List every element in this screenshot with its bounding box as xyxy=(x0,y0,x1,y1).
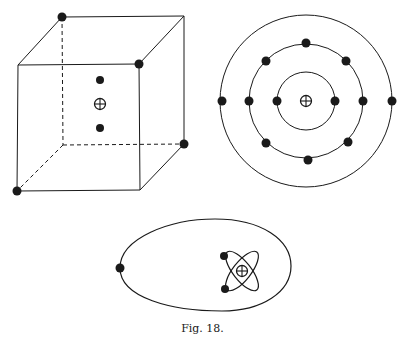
electron-dot xyxy=(116,264,125,273)
cube-hidden-edge xyxy=(62,17,63,145)
electron-dot xyxy=(273,97,282,106)
electron-dot xyxy=(13,187,22,196)
nucleus-icon xyxy=(237,266,248,277)
electron-dot xyxy=(58,13,67,22)
nucleus-icon xyxy=(95,99,106,110)
cube-edge xyxy=(17,190,140,191)
electron-dot xyxy=(304,156,313,165)
electron-dot xyxy=(342,57,351,66)
electron-dot xyxy=(245,97,254,106)
nucleus-icon xyxy=(301,96,312,107)
electron-dot xyxy=(302,39,311,48)
electron-dot xyxy=(262,57,271,66)
electron-dot xyxy=(96,76,104,84)
cube-edge xyxy=(17,65,18,191)
electron-dot xyxy=(359,97,368,106)
elliptical-orbit-diagram xyxy=(120,219,291,311)
cube-hidden-edge xyxy=(17,145,63,191)
electron-dot xyxy=(331,97,340,106)
cube-edge xyxy=(62,16,184,17)
electron-dot xyxy=(96,124,104,132)
electron-dot xyxy=(218,97,227,106)
electron-dot xyxy=(180,140,189,149)
cube-hidden-edge xyxy=(63,144,184,145)
figure-18 xyxy=(0,0,405,342)
cube-edge xyxy=(139,16,184,64)
cube-edge xyxy=(18,17,62,65)
electron-dot xyxy=(220,252,228,260)
cube-edge xyxy=(18,64,139,65)
electron-dot xyxy=(388,97,397,106)
figure-caption: Fig. 18. xyxy=(0,322,405,335)
elliptical-electrons xyxy=(116,252,230,293)
outer-elliptical-orbit xyxy=(120,219,291,311)
cube-edge xyxy=(140,144,184,190)
electron-dot xyxy=(262,139,271,148)
electron-dot xyxy=(221,285,229,293)
electron-dot xyxy=(344,138,353,147)
cube-edge xyxy=(139,64,140,190)
electron-dot xyxy=(135,60,144,69)
